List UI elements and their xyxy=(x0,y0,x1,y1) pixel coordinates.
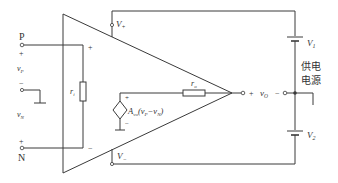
negative-supply-rail xyxy=(110,149,295,166)
n-plus-sign: + xyxy=(19,137,24,146)
p-plus-sign: + xyxy=(19,49,24,58)
input-resistor-ri xyxy=(80,82,86,101)
n-terminal xyxy=(20,146,24,150)
power-supply-label-line1: 供电 xyxy=(301,60,321,72)
vn-label: vN xyxy=(17,110,25,120)
p-terminal xyxy=(20,43,24,47)
dep-source-expression: Avo(vP−vN) xyxy=(127,106,163,117)
input-p-wire xyxy=(24,45,83,82)
vplus-label: V+ xyxy=(116,19,126,30)
amp-noninverting-mark: + xyxy=(88,43,93,52)
vminus-label: V− xyxy=(117,151,127,162)
vo-label: vO xyxy=(260,88,268,99)
op-amp-circuit-diagram: V+ V− V1 V2 供电 电源 P + vP − ri xyxy=(0,0,338,183)
vminus-terminal-node xyxy=(110,162,113,165)
power-supply-label-line2: 电源 xyxy=(301,74,321,86)
ri-label: ri xyxy=(70,87,75,97)
input-ground-reference xyxy=(20,88,46,103)
dep-source-minus: − xyxy=(125,120,129,128)
dep-source-plus: + xyxy=(125,94,129,102)
output-minus-sign: − xyxy=(275,89,280,98)
output-plus-sign: + xyxy=(249,89,254,98)
positive-supply-rail xyxy=(110,11,295,37)
p-minus-sign: − xyxy=(19,79,24,88)
n-label: N xyxy=(18,152,25,163)
input-n-wire xyxy=(24,101,83,148)
ro-label: ro xyxy=(191,79,197,89)
amp-inverting-mark: − xyxy=(88,144,93,153)
vp-label: vP xyxy=(17,64,24,74)
v2-label: V2 xyxy=(307,130,316,141)
p-label: P xyxy=(19,31,25,42)
output-plus-terminal xyxy=(241,91,245,95)
output-minus-terminal xyxy=(283,91,287,95)
vplus-terminal-node xyxy=(110,23,113,26)
supply-column xyxy=(287,11,313,164)
v1-label: V1 xyxy=(307,38,316,49)
output-resistor-ro xyxy=(183,90,205,96)
